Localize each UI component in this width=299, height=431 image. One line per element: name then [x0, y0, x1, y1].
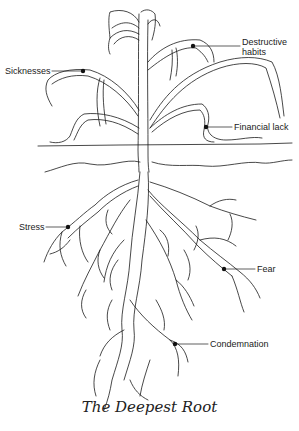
- root-main: [104, 172, 149, 410]
- marker-condemnation: [173, 342, 177, 346]
- label-fear: Fear: [257, 264, 276, 274]
- diagram-canvas: Sicknesses Destructive habits Financial …: [0, 0, 299, 431]
- root-condemnation: [100, 300, 188, 396]
- marker-stress: [66, 225, 70, 229]
- root-right-mid: [146, 220, 194, 320]
- label-destructive-habits-line1: Destructive: [242, 37, 287, 47]
- diagram-title: The Deepest Root: [0, 398, 299, 416]
- root-left-mid: [78, 200, 130, 296]
- leaf-sicknesses: [46, 69, 139, 116]
- label-sicknesses: Sicknesses: [5, 66, 51, 76]
- leaf-top: [109, 10, 160, 40]
- marker-financial-lack: [204, 125, 208, 129]
- stem: [138, 14, 149, 172]
- marker-dots: [66, 44, 226, 346]
- label-destructive-habits-line2: habits: [242, 47, 266, 57]
- root-right-upper: [150, 182, 256, 240]
- label-financial-lack: Financial lack: [234, 122, 289, 132]
- marker-sicknesses: [81, 69, 85, 73]
- leaf-lower-left: [50, 114, 139, 143]
- rootlets: [82, 210, 199, 400]
- leaf-small-left: [109, 31, 140, 54]
- label-stress: Stress: [19, 222, 45, 232]
- marker-fear: [222, 267, 226, 271]
- root-stress: [44, 180, 138, 266]
- marker-destructive-habits: [191, 44, 195, 48]
- leaf-left-hang: [97, 78, 106, 126]
- plant-illustration: [0, 0, 299, 431]
- label-condemnation: Condemnation: [210, 339, 269, 349]
- leaf-right-arch: [150, 58, 284, 129]
- leader-lines: [46, 46, 255, 344]
- soil-line: [45, 160, 292, 172]
- ground-line: [38, 143, 292, 146]
